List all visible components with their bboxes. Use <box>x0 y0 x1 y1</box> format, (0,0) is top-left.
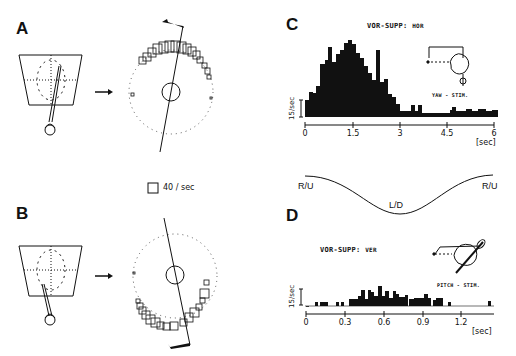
y-scale-bar-c <box>299 100 303 117</box>
polar-plot-a <box>129 19 213 152</box>
legend-square-icon <box>148 183 158 193</box>
x-tick-d-1: 0.3 <box>339 318 352 327</box>
y-scale-label-c: 15/sec <box>288 97 296 120</box>
head-yaw-icon <box>427 47 469 86</box>
screen-diagram-a <box>19 55 82 135</box>
x-tick-c-3: 4.5 <box>441 129 454 138</box>
histogram-d <box>306 286 491 307</box>
x-tick-d-4: 1.2 <box>455 318 468 327</box>
waveform-label-mid: L/D <box>389 200 403 210</box>
x-tick-c-4: 6 <box>491 129 496 138</box>
waveform-label-right: R/U <box>482 181 498 191</box>
polar-plot-b <box>133 218 217 349</box>
x-unit-c: [sec] <box>476 138 496 147</box>
x-tick-d-2: 0.6 <box>378 318 391 327</box>
screen-diagram-b <box>19 246 82 325</box>
mode-d: VER <box>365 246 377 253</box>
x-axis-d <box>306 311 494 317</box>
mode-c: HOR <box>412 22 424 29</box>
arrow-right-b <box>95 273 113 279</box>
figure-graphics <box>0 0 516 356</box>
title-d: VOR-SUPP: VER <box>320 246 377 254</box>
waveform-label-left: R/U <box>298 181 314 191</box>
y-scale-bar-d <box>299 289 303 305</box>
arrow-right-a <box>95 89 113 95</box>
x-tick-c-1: 1.5 <box>347 129 360 138</box>
x-tick-c-0: 0 <box>302 129 307 138</box>
x-tick-c-2: 3 <box>397 129 402 138</box>
x-axis-c <box>305 122 494 128</box>
title-c: VOR-SUPP: HOR <box>367 22 424 30</box>
x-tick-d-0: 0 <box>303 318 308 327</box>
stim-label-c: YAW - STIM. <box>432 92 468 98</box>
x-unit-d: [sec] <box>472 327 492 336</box>
histogram-c <box>305 40 498 117</box>
y-scale-label-d: 15/sec <box>288 285 296 308</box>
head-pitch-icon <box>433 238 487 273</box>
legend-scale-label: 40 / sec <box>163 183 194 192</box>
stim-label-d: PITCH - STIM. <box>437 282 480 288</box>
x-tick-d-3: 0.9 <box>417 318 430 327</box>
title-d-text: VOR-SUPP: <box>320 246 361 254</box>
title-c-text: VOR-SUPP: <box>367 22 408 30</box>
